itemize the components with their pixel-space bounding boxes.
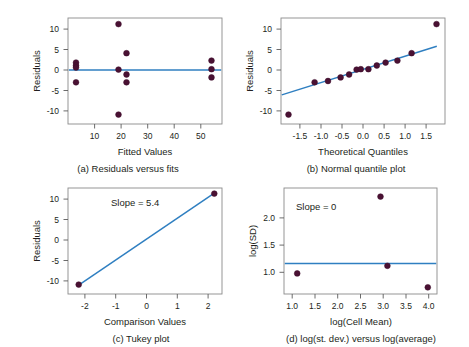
panel-c-x-axis-title: Comparison Values — [104, 316, 186, 327]
data-point — [211, 191, 217, 197]
data-point — [124, 79, 130, 85]
panel-a-xtick-label-2: 30 — [143, 131, 153, 141]
panel-d-x-axis: 1.0 1.5 2.0 2.5 3.0 3.5 4.0 — [286, 294, 435, 311]
panel-c-ytick-label-2: 0 — [54, 235, 59, 245]
panel-a-xtick-label-3: 40 — [169, 131, 179, 141]
data-point — [116, 21, 122, 27]
panel-b-xtick-label-5: 1.0 — [399, 131, 411, 141]
panel-b-ytick-label-0: 10 — [263, 24, 273, 34]
panel-a-svg: 10 5 0 -5 -10 10 20 30 40 — [0, 0, 235, 175]
data-point — [434, 21, 440, 27]
panel-a-xtick-label-1: 20 — [116, 131, 126, 141]
data-point — [374, 63, 380, 69]
data-point — [209, 75, 215, 81]
panel-a-y-axis: 10 5 0 -5 -10 — [47, 24, 68, 116]
data-point — [425, 284, 431, 290]
panel-b-xtick-label-2: -0.5 — [335, 131, 350, 141]
panel-d-x-axis-title: log(Cell Mean) — [330, 316, 392, 327]
panel-b-y-axis: 10 5 0 -5 -10 — [260, 24, 281, 116]
panel-d-y-axis: 2.0 1.5 1.0 — [263, 213, 284, 277]
panel-b-xtick-label-0: -1.5 — [293, 131, 308, 141]
data-point — [366, 66, 372, 72]
data-point — [116, 112, 122, 118]
data-point — [358, 66, 364, 72]
panel-b-ytick-label-3: -5 — [264, 86, 272, 96]
panel-b-normal-quantile-plot: 10 5 0 -5 -10 -1.5 -1.0 -0.5 0.0 — [234, 0, 469, 175]
panel-a-y-axis-title: Residuals — [31, 50, 42, 92]
panel-d-xtick-label-5: 3.5 — [400, 301, 412, 311]
panel-b-ytick-label-4: -10 — [260, 106, 273, 116]
panel-c-svg: 10 5 0 -5 -10 -2 -1 0 1 2 — [0, 172, 235, 347]
panel-a-xtick-label-4: 50 — [196, 131, 206, 141]
panel-d-ytick-label-2: 1.0 — [263, 267, 275, 277]
panel-d-xtick-label-0: 1.0 — [286, 301, 298, 311]
panel-d-caption: (d) log(st. dev.) versus log(average) — [286, 333, 436, 344]
panel-a-x-axis-title: Fitted Values — [118, 146, 173, 157]
panel-d-xtick-label-6: 4.0 — [423, 301, 435, 311]
panel-b-xtick-label-1: -1.0 — [314, 131, 329, 141]
panel-c-y-axis-title: Residuals — [31, 220, 42, 262]
panel-d-y-axis-title: log(SD) — [247, 225, 258, 257]
panel-d-logsd-versus-logmean: 2.0 1.5 1.0 1.0 1.5 2.0 2.5 3.0 3.5 — [234, 172, 469, 347]
panel-b-data-points — [286, 21, 440, 117]
panel-a-xtick-label-0: 10 — [90, 131, 100, 141]
panel-b-svg: 10 5 0 -5 -10 -1.5 -1.0 -0.5 0.0 — [234, 0, 469, 175]
panel-a-plot-frame — [68, 18, 222, 124]
data-point — [73, 65, 79, 71]
data-point — [346, 72, 352, 78]
panel-d-slope-annotation: Slope = 0 — [296, 201, 336, 212]
panel-c-y-axis: 10 5 0 -5 -10 — [47, 194, 68, 286]
panel-c-xtick-label-3: 1 — [175, 301, 180, 311]
panel-a-ytick-label-2: 0 — [54, 65, 59, 75]
panel-b-xtick-label-3: 0.0 — [357, 131, 369, 141]
panel-b-x-axis-title: Theoretical Quantiles — [318, 146, 408, 157]
data-point — [116, 67, 122, 73]
panel-a-residuals-versus-fits: 10 5 0 -5 -10 10 20 30 40 — [0, 0, 235, 175]
panel-d-ytick-label-1: 1.5 — [263, 240, 275, 250]
panel-b-y-axis-title: Residuals — [244, 50, 255, 92]
data-point — [385, 263, 391, 269]
panel-b-xtick-label-6: 1.5 — [420, 131, 432, 141]
data-point — [312, 79, 318, 85]
panel-c-xtick-label-4: 2 — [206, 301, 211, 311]
panel-b-ytick-label-2: 0 — [267, 65, 272, 75]
panel-a-x-axis: 10 20 30 40 50 — [90, 124, 206, 141]
panel-c-ytick-label-3: -5 — [51, 256, 59, 266]
data-point — [124, 72, 130, 78]
panel-d-xtick-label-2: 2.0 — [332, 301, 344, 311]
panel-a-ytick-label-0: 10 — [50, 24, 60, 34]
panel-d-ytick-label-0: 2.0 — [263, 213, 275, 223]
panel-d-xtick-label-1: 1.5 — [309, 301, 321, 311]
panel-c-xtick-label-1: -1 — [112, 301, 120, 311]
data-point — [409, 50, 415, 56]
data-point — [325, 78, 331, 84]
panel-b-ytick-label-1: 5 — [267, 45, 272, 55]
panel-c-slope-annotation: Slope = 5.4 — [111, 197, 159, 208]
panel-d-svg: 2.0 1.5 1.0 1.0 1.5 2.0 2.5 3.0 3.5 — [234, 172, 469, 347]
data-point — [294, 271, 300, 277]
four-panel-diagnostic-figure: 10 5 0 -5 -10 10 20 30 40 — [0, 0, 469, 347]
panel-b-x-axis: -1.5 -1.0 -0.5 0.0 0.5 1.0 1.5 — [293, 124, 433, 141]
panel-c-ytick-label-0: 10 — [50, 194, 60, 204]
panel-c-x-axis: -2 -1 0 1 2 — [81, 294, 211, 311]
panel-b-xtick-label-4: 0.5 — [378, 131, 390, 141]
panel-c-xtick-label-0: -2 — [81, 301, 89, 311]
panel-c-tukey-plot: 10 5 0 -5 -10 -2 -1 0 1 2 — [0, 172, 235, 347]
data-point — [76, 282, 82, 288]
data-point — [209, 58, 215, 64]
data-point — [73, 79, 79, 85]
data-point — [286, 112, 292, 118]
data-point — [383, 60, 389, 66]
panel-c-ytick-label-1: 5 — [54, 215, 59, 225]
panel-d-xtick-label-4: 3.0 — [377, 301, 389, 311]
panel-c-xtick-label-2: 0 — [144, 301, 149, 311]
data-point — [124, 50, 130, 56]
data-point — [395, 58, 401, 64]
panel-d-xtick-label-3: 2.5 — [355, 301, 367, 311]
panel-c-caption: (c) Tukey plot — [112, 333, 169, 344]
panel-a-ytick-label-3: -5 — [51, 86, 59, 96]
panel-a-ytick-label-1: 5 — [54, 45, 59, 55]
panel-c-ytick-label-4: -10 — [47, 276, 60, 286]
data-point — [338, 75, 344, 81]
data-point — [209, 66, 215, 72]
